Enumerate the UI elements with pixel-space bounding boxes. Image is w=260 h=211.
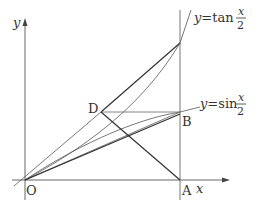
point-A-label: A bbox=[181, 183, 192, 198]
point-D-label: D bbox=[88, 101, 98, 116]
diagram-canvas: y x O A B D y=tan x 2 y=sin x 2 bbox=[0, 0, 260, 211]
tan-curve bbox=[25, 10, 191, 180]
sin-frac-num: x bbox=[238, 91, 245, 104]
y-axis-label: y bbox=[12, 15, 21, 30]
x-axis-label: x bbox=[196, 181, 204, 196]
tan-curve-label: y=tan x 2 bbox=[193, 5, 246, 32]
sin-curve-label: y=sin x 2 bbox=[199, 91, 246, 118]
sin-frac-den: 2 bbox=[237, 105, 244, 118]
chord-O-B bbox=[25, 114, 180, 180]
origin-label: O bbox=[26, 183, 37, 198]
point-B-label: B bbox=[182, 114, 192, 129]
tan-frac-den: 2 bbox=[237, 19, 244, 32]
svg-text:y=tan: y=tan bbox=[193, 10, 234, 25]
sin-label-rest: =sin bbox=[207, 96, 238, 111]
x-axis-arrow-icon bbox=[222, 178, 230, 183]
segment-D-T bbox=[101, 43, 180, 112]
y-axis-arrow-icon bbox=[23, 18, 28, 26]
tan-frac-num: x bbox=[238, 5, 245, 18]
tan-label-rest: =tan bbox=[201, 10, 234, 25]
line-O-D-extension bbox=[14, 112, 101, 186]
svg-text:y=sin: y=sin bbox=[199, 96, 238, 111]
